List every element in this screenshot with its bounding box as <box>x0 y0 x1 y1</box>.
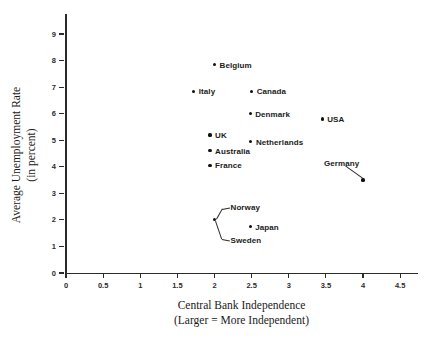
data-point <box>250 90 253 93</box>
x-tick-label: 4 <box>351 281 375 290</box>
data-point-label: Germany <box>324 159 359 168</box>
y-tick-mark <box>59 33 64 34</box>
data-point <box>208 164 211 167</box>
label-leader-line <box>215 221 222 239</box>
y-tick-mark <box>59 246 64 247</box>
data-point-label: France <box>215 161 242 170</box>
y-axis-title-line2: (in percent) <box>24 45 39 265</box>
data-point-label: Italy <box>199 87 216 96</box>
x-tick-label: 2 <box>203 281 227 290</box>
x-tick-label: 2.5 <box>240 281 264 290</box>
x-axis-title: Central Bank Independence (Larger = More… <box>65 298 418 327</box>
data-point-label: USA <box>327 115 344 124</box>
y-tick-mark <box>59 219 64 220</box>
y-tick-mark <box>59 272 64 273</box>
data-point <box>249 112 252 115</box>
x-axis-title-line1: Central Bank Independence <box>65 298 418 313</box>
x-tick-label: 1 <box>128 281 152 290</box>
data-point-label: Denmark <box>255 110 290 119</box>
y-tick-label: 0 <box>44 269 56 278</box>
x-tick-label: 0.5 <box>91 281 115 290</box>
y-tick-label: 5 <box>44 136 56 145</box>
y-tick-mark <box>59 140 64 141</box>
x-tick-label: 3.5 <box>314 281 338 290</box>
data-point <box>192 90 195 93</box>
x-tick-mark <box>251 273 252 278</box>
data-point-label: Japan <box>255 223 279 232</box>
label-leader-line <box>222 207 230 209</box>
y-tick-label: 9 <box>44 30 56 39</box>
x-axis-line <box>65 273 418 275</box>
y-tick-label: 6 <box>44 109 56 118</box>
x-tick-mark <box>400 273 401 278</box>
data-point-label: Norway <box>231 203 261 212</box>
y-tick-mark <box>59 60 64 61</box>
y-axis-title: Average Unemployment Rate (in percent) <box>9 45 39 265</box>
data-point <box>208 133 211 136</box>
x-tick-label: 4.5 <box>388 281 412 290</box>
x-tick-mark <box>65 273 66 278</box>
data-point-label: UK <box>215 131 227 140</box>
data-point <box>249 225 252 228</box>
data-point <box>249 140 252 143</box>
x-tick-label: 0 <box>54 281 78 290</box>
y-tick-label: 4 <box>44 162 56 171</box>
data-point-label: Belgium <box>220 61 252 70</box>
y-tick-mark <box>59 193 64 194</box>
label-leader-line <box>216 209 223 220</box>
y-tick-mark <box>59 113 64 114</box>
y-tick-label: 3 <box>44 189 56 198</box>
scatter-plot-figure: 0123456789 00.511.522.533.544.5 BelgiumI… <box>0 0 433 346</box>
y-tick-label: 7 <box>44 83 56 92</box>
y-tick-mark <box>59 166 64 167</box>
data-point-label: Australia <box>215 147 250 156</box>
data-point-label: Netherlands <box>256 138 303 147</box>
y-tick-label: 8 <box>44 56 56 65</box>
x-tick-mark <box>103 273 104 278</box>
label-leader-line <box>221 239 229 241</box>
x-tick-label: 1.5 <box>165 281 189 290</box>
y-axis-line <box>65 14 67 274</box>
y-tick-label: 2 <box>44 215 56 224</box>
data-point <box>208 149 211 152</box>
y-tick-label: 1 <box>44 242 56 251</box>
data-point-label: Sweden <box>231 236 262 245</box>
x-tick-mark <box>177 273 178 278</box>
data-point <box>321 117 324 120</box>
y-tick-mark <box>59 87 64 88</box>
x-tick-mark <box>140 273 141 278</box>
data-point <box>213 63 216 66</box>
x-tick-label: 3 <box>277 281 301 290</box>
x-tick-mark <box>362 273 363 278</box>
y-axis-title-line1: Average Unemployment Rate <box>9 45 24 265</box>
x-tick-mark <box>325 273 326 278</box>
data-point-label: Canada <box>257 87 287 96</box>
plot-area: 0123456789 00.511.522.533.544.5 BelgiumI… <box>0 0 433 346</box>
x-tick-mark <box>214 273 215 278</box>
x-axis-title-line2: (Larger = More Independent) <box>65 313 418 328</box>
x-tick-mark <box>288 273 289 278</box>
